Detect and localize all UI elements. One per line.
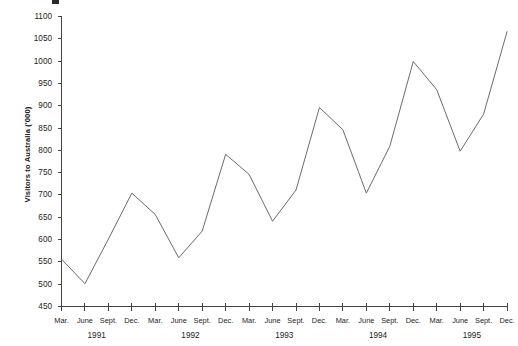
x-axis-tick-labels: Mar.JuneSept.Dec.Mar.JuneSept.Dec.Mar.Ju… (54, 316, 514, 325)
y-axis-tick-label: 950 (38, 79, 52, 88)
x-axis-tick-label: Mar. (148, 316, 162, 325)
y-axis-tick-label: 1100 (34, 12, 52, 21)
y-axis-tick-label: 550 (38, 257, 52, 266)
x-axis-year-labels: 19911992199319941995 (88, 331, 482, 340)
y-axis-tick-labels: 4505005506006507007508008509009501000105… (34, 12, 53, 311)
x-axis-year-label: 1992 (181, 331, 200, 340)
x-axis-tick-label: Dec. (406, 316, 421, 325)
x-axis-tick-label: Dec. (218, 316, 233, 325)
y-axis-tick-label: 450 (38, 302, 52, 311)
y-axis-tick-label: 750 (38, 168, 52, 177)
x-axis-year-label: 1993 (275, 331, 294, 340)
x-axis-tick-label: June (265, 316, 281, 325)
x-axis-tick-label: Sept. (100, 316, 117, 325)
x-axis-tick-label: Sept. (194, 316, 211, 325)
y-axis-tick-label: 850 (38, 124, 52, 133)
y-axis-tick-label: 600 (38, 235, 52, 244)
x-axis-tick-label: June (171, 316, 187, 325)
x-axis-tick-label: Sept. (475, 316, 492, 325)
y-axis-tick-label: 700 (38, 190, 52, 199)
x-axis-tick-label: Sept. (381, 316, 398, 325)
x-axis-tick-label: Mar. (430, 316, 444, 325)
y-axis-tick-label: 500 (38, 280, 52, 289)
line-chart-figure: Visitors to Australia ('000) 45050055060… (0, 0, 518, 346)
x-axis-year-label: 1994 (369, 331, 388, 340)
y-axis-tick-label: 650 (38, 213, 52, 222)
y-axis-tick-marks (58, 17, 62, 307)
x-axis-tick-label: Mar. (242, 316, 256, 325)
x-axis-tick-label: Mar. (336, 316, 350, 325)
x-axis-tick-label: June (452, 316, 468, 325)
x-axis-tick-label: Dec. (312, 316, 327, 325)
x-axis-year-label: 1995 (463, 331, 482, 340)
x-axis-tick-label: June (358, 316, 374, 325)
x-axis-tick-label: Dec. (499, 316, 514, 325)
y-axis-tick-label: 1050 (34, 34, 53, 43)
y-axis-tick-label: 1000 (34, 57, 53, 66)
x-axis-tick-label: Dec. (124, 316, 139, 325)
x-axis-tick-label: Mar. (54, 316, 68, 325)
data-series-line (62, 32, 508, 284)
chart-plot-area: 4505005506006507007508008509009501000105… (0, 0, 518, 346)
x-axis-tick-label: Sept. (287, 316, 304, 325)
y-axis-tick-label: 800 (38, 146, 52, 155)
x-axis-year-label: 1991 (88, 331, 107, 340)
x-axis-tick-label: June (77, 316, 93, 325)
y-axis-tick-label: 900 (38, 101, 52, 110)
